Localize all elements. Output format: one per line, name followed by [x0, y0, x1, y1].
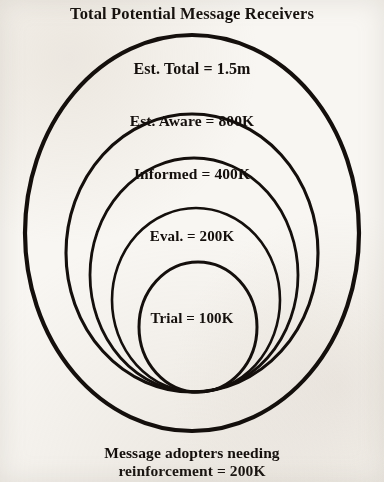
ring-label-eval: Eval. = 200K — [0, 228, 384, 245]
ring-informed — [90, 158, 298, 392]
ring-label-informed: Informed = 400K — [0, 165, 384, 183]
ring-label-trial: Trial = 100K — [0, 310, 384, 327]
page-title: Total Potential Message Receivers — [0, 4, 384, 24]
ring-label-est-total: Est. Total = 1.5m — [0, 60, 384, 78]
figure-caption-line-1: Message adopters needing — [0, 444, 384, 462]
ring-label-est-aware: Est. Aware = 800K — [0, 112, 384, 130]
ring-trial — [139, 262, 257, 392]
figure-caption: Message adopters needing reinforcement =… — [0, 444, 384, 480]
ring-est-aware — [66, 114, 318, 392]
funnel-diagram-figure: Total Potential Message Receivers Est. T… — [0, 0, 384, 482]
figure-caption-line-2: reinforcement = 200K — [0, 462, 384, 480]
